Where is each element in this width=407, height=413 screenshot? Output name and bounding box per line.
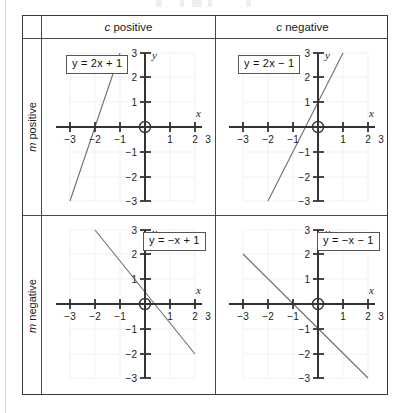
svg-text:−1: −1 — [287, 311, 299, 322]
svg-text:−3: −3 — [64, 311, 76, 322]
y-axis-label: y — [151, 49, 157, 61]
svg-text:1: 1 — [131, 274, 137, 285]
svg-text:2: 2 — [365, 311, 371, 322]
svg-text:2: 2 — [131, 72, 137, 83]
svg-text:−1: −1 — [299, 147, 311, 158]
svg-text:−1: −1 — [126, 324, 138, 335]
x-tick-labels: −3 −2 −1 1 2 3 — [237, 134, 384, 145]
row-header-m-positive: m positive — [23, 39, 41, 215]
svg-text:1: 1 — [167, 134, 173, 145]
graph-cell-bottom-left: −3 −2 −1 1 2 3 3 2 1 −1 −2 −3 x y y = −x… — [42, 216, 215, 395]
column-header-c-negative: c negative — [217, 16, 388, 38]
svg-text:−2: −2 — [126, 349, 138, 360]
column-divider-middle — [215, 16, 216, 394]
svg-text:−3: −3 — [299, 196, 311, 207]
svg-text:3: 3 — [378, 134, 384, 145]
x-tick-labels: −3 −2 −1 1 2 3 — [64, 134, 211, 145]
svg-text:3: 3 — [205, 311, 211, 322]
svg-text:−3: −3 — [126, 196, 138, 207]
equation-label-top-right: y = 2x − 1 — [238, 55, 300, 74]
row-header-variable: m — [26, 143, 38, 152]
svg-text:−2: −2 — [262, 134, 274, 145]
svg-text:1: 1 — [304, 274, 310, 285]
svg-text:−3: −3 — [299, 373, 311, 384]
svg-text:−1: −1 — [287, 134, 299, 145]
svg-text:−2: −2 — [299, 349, 311, 360]
svg-text:1: 1 — [340, 134, 346, 145]
svg-text:−1: −1 — [114, 311, 126, 322]
page-edge-rule — [5, 0, 6, 413]
x-axis-label: x — [195, 107, 201, 119]
svg-text:−3: −3 — [126, 373, 138, 384]
x-axis-label: x — [368, 107, 374, 119]
x-axis-label: x — [195, 284, 201, 296]
equation-label-bottom-right: y = −x − 1 — [317, 232, 380, 251]
svg-text:3: 3 — [131, 225, 137, 236]
row-header-variable: m — [26, 323, 38, 332]
svg-text:3: 3 — [131, 48, 137, 59]
svg-text:1: 1 — [340, 311, 346, 322]
svg-text:3: 3 — [304, 225, 310, 236]
cropped-caption-artifact — [150, 0, 280, 7]
svg-text:2: 2 — [304, 72, 310, 83]
equation-label-bottom-left: y = −x + 1 — [143, 232, 206, 251]
svg-text:3: 3 — [304, 48, 310, 59]
svg-text:−1: −1 — [299, 324, 311, 335]
svg-text:−1: −1 — [114, 134, 126, 145]
svg-text:−2: −2 — [126, 172, 138, 183]
equation-label-top-left: y = 2x + 1 — [66, 55, 128, 74]
graph-matrix-table: c positive c negative m positive m negat… — [22, 15, 388, 395]
x-tick-labels: −3 −2 −1 1 2 3 — [64, 311, 211, 322]
svg-text:−3: −3 — [237, 311, 249, 322]
svg-text:2: 2 — [192, 311, 198, 322]
x-axis-label: x — [368, 284, 374, 296]
svg-text:3: 3 — [378, 311, 384, 322]
svg-text:2: 2 — [192, 134, 198, 145]
column-header-c-positive: c positive — [42, 16, 215, 38]
svg-text:−3: −3 — [237, 134, 249, 145]
svg-text:2: 2 — [304, 249, 310, 260]
row-header-qualifier: positive — [26, 102, 38, 142]
row-header-qualifier: negative — [26, 279, 38, 324]
svg-text:−2: −2 — [89, 311, 101, 322]
svg-text:2: 2 — [365, 134, 371, 145]
x-tick-labels: −3 −2 −1 1 2 3 — [237, 311, 384, 322]
column-header-qualifier: positive — [110, 21, 152, 33]
svg-text:1: 1 — [167, 311, 173, 322]
svg-text:3: 3 — [205, 134, 211, 145]
svg-text:−2: −2 — [299, 172, 311, 183]
column-header-qualifier: negative — [282, 21, 329, 33]
svg-text:1: 1 — [131, 97, 137, 108]
svg-text:−2: −2 — [89, 134, 101, 145]
svg-text:2: 2 — [131, 249, 137, 260]
svg-text:−3: −3 — [64, 134, 76, 145]
svg-text:−2: −2 — [262, 311, 274, 322]
svg-text:1: 1 — [304, 97, 310, 108]
graph-cell-top-right: −3 −2 −1 1 2 3 3 2 1 −1 −2 −3 x y y = 2x… — [217, 39, 388, 215]
graph-cell-bottom-right: −3 −2 −1 1 2 3 3 2 1 −1 −2 −3 x y y = −x… — [217, 216, 388, 395]
row-header-m-negative: m negative — [23, 216, 41, 395]
y-axis-label: y — [324, 49, 330, 61]
svg-text:−1: −1 — [126, 147, 138, 158]
graph-cell-top-left: −3 −2 −1 1 2 3 3 2 1 −1 −2 −3 x y y = 2x… — [42, 39, 215, 215]
